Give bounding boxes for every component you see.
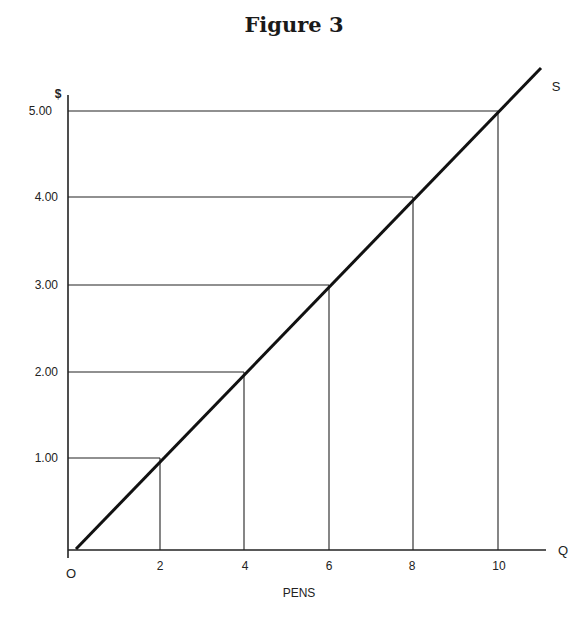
curve-label-s: S	[552, 79, 561, 94]
quantity-axis-label: Q	[558, 543, 568, 558]
x-tick-2: 2	[157, 559, 164, 573]
vertical-guides	[160, 111, 498, 550]
x-axis-title: PENS	[283, 586, 316, 600]
y-tick-4: 4.00	[35, 190, 59, 204]
x-tick-10: 10	[492, 559, 506, 573]
x-tick-6: 6	[326, 559, 333, 573]
y-tick-2: 2.00	[35, 365, 59, 379]
y-tick-1: 1.00	[35, 451, 59, 465]
x-tick-8: 8	[409, 559, 416, 573]
y-tick-3: 3.00	[35, 278, 59, 292]
supply-chart: 1.00 2.00 3.00 4.00 5.00 $ 2 4 6 8 10 O …	[0, 0, 588, 624]
y-axis-unit: $	[55, 87, 62, 101]
x-tick-4: 4	[242, 559, 249, 573]
horizontal-guides	[68, 111, 498, 458]
y-tick-5: 5.00	[29, 104, 53, 118]
origin-label: O	[66, 566, 76, 581]
supply-curve-s	[76, 68, 541, 549]
